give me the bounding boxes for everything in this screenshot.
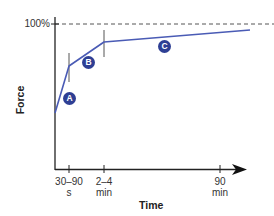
y-axis-title: Force <box>14 83 26 117</box>
phase-badge-c: C <box>158 40 171 53</box>
x-tick-label-line1: 30–90 <box>49 176 89 187</box>
x-tick-label-line2: s <box>49 187 89 198</box>
x-tick-label-2-4min: 2–4 min <box>86 176 122 198</box>
x-tick-label-line2: min <box>204 187 236 198</box>
phase-badge-a: A <box>63 92 76 105</box>
x-tick-label-line2: min <box>86 187 122 198</box>
force-time-chart: 100% Force 30–90 s 2–4 min 90 min Time A… <box>0 0 274 216</box>
x-tick-label-line1: 90 <box>204 176 236 187</box>
y-tick-label-100: 100% <box>20 18 50 29</box>
phase-badge-b: B <box>82 56 95 69</box>
x-axis-title: Time <box>139 199 163 211</box>
x-tick-label-30-90s: 30–90 s <box>49 176 89 198</box>
x-tick-label-90min: 90 min <box>204 176 236 198</box>
x-tick-label-line1: 2–4 <box>86 176 122 187</box>
force-curve <box>55 30 250 113</box>
